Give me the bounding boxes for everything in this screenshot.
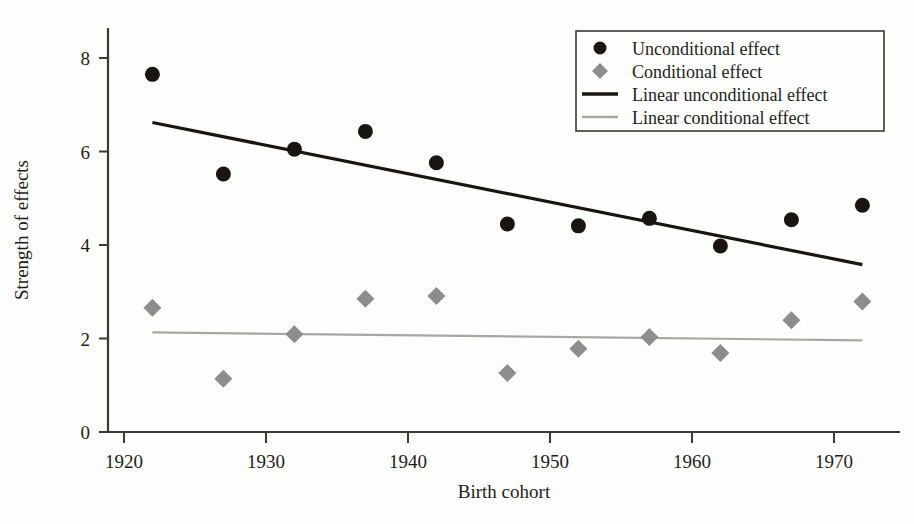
y-axis-title: Strength of effects (11, 160, 32, 300)
data-point-conditional (356, 290, 374, 308)
legend: Unconditional effectConditional effectLi… (576, 31, 884, 131)
data-point-unconditional (855, 198, 870, 213)
data-point-unconditional (216, 166, 231, 181)
legend-entry-label: Linear unconditional effect (632, 85, 828, 105)
y-tick-label: 4 (81, 235, 91, 256)
chart-container: 02468 192019301940195019601970 Birth coh… (0, 0, 914, 524)
y-tick-label: 6 (81, 142, 91, 163)
trendline-conditional (152, 332, 862, 340)
data-point-conditional (143, 299, 161, 317)
data-point-unconditional (713, 238, 728, 253)
data-point-unconditional (358, 124, 373, 139)
x-tick-label: 1970 (815, 451, 853, 472)
legend-marker-circle (594, 42, 607, 55)
data-point-conditional (711, 344, 729, 362)
data-point-unconditional (287, 142, 302, 157)
y-tick-label: 2 (81, 329, 91, 350)
data-point-conditional (214, 370, 232, 388)
data-point-unconditional (500, 216, 515, 231)
scatter-plot-svg: 02468 192019301940195019601970 Birth coh… (0, 0, 914, 524)
x-tick-label: 1920 (105, 451, 143, 472)
legend-entry-label: Unconditional effect (632, 39, 780, 59)
y-tick-label: 8 (81, 48, 91, 69)
y-tick-label: 0 (81, 422, 91, 443)
data-point-unconditional (145, 67, 160, 82)
data-point-conditional (569, 340, 587, 358)
data-point-unconditional (784, 212, 799, 227)
data-point-conditional (427, 287, 445, 305)
x-axis-title: Birth cohort (458, 481, 551, 502)
data-point-unconditional (429, 155, 444, 170)
data-point-conditional (285, 325, 303, 343)
data-point-conditional (853, 293, 871, 311)
x-tick-label: 1940 (389, 451, 427, 472)
x-tick-label: 1930 (247, 451, 285, 472)
data-point-conditional (498, 364, 516, 382)
legend-entry-label: Conditional effect (632, 62, 762, 82)
data-point-conditional (782, 311, 800, 329)
x-tick-label: 1960 (673, 451, 711, 472)
y-axis-ticks: 02468 (81, 48, 109, 443)
data-point-unconditional (571, 218, 586, 233)
data-point-unconditional (642, 211, 657, 226)
legend-entry-label: Linear conditional effect (632, 108, 810, 128)
data-point-conditional (640, 328, 658, 346)
trendline-unconditional (152, 123, 862, 265)
x-tick-label: 1950 (531, 451, 569, 472)
x-axis-ticks: 192019301940195019601970 (105, 432, 853, 472)
